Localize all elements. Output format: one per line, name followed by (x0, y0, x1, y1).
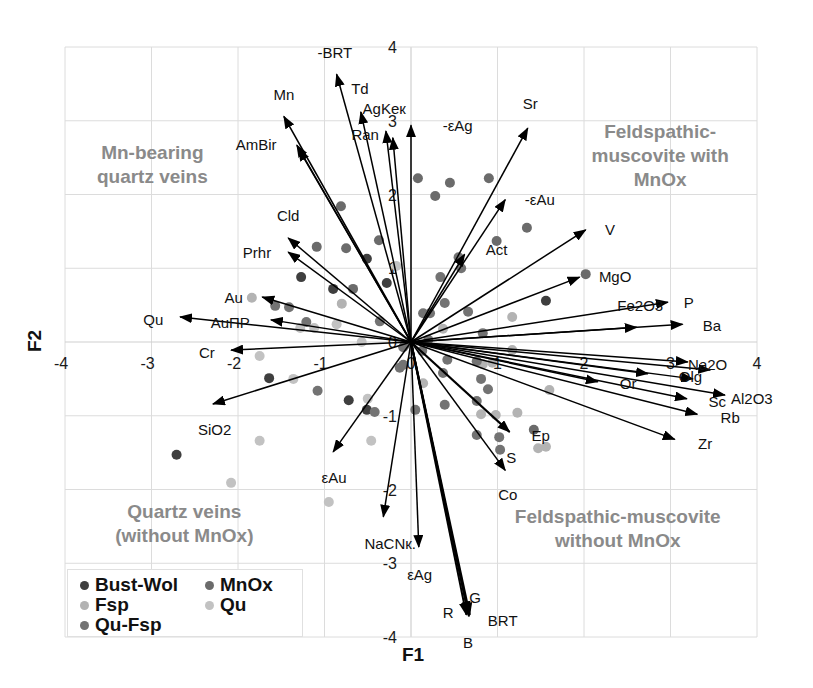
data-point (494, 432, 504, 442)
data-point (312, 242, 322, 252)
x-tick-label: -3 (140, 355, 154, 372)
data-point (495, 445, 505, 455)
vector-label: εAg (407, 566, 432, 583)
legend-item-qu: Qu (205, 595, 302, 615)
region-feldspathic-muscovite-without-mnox: Feldspathic-muscovitewithout MnOx (515, 506, 721, 551)
data-point (410, 405, 420, 415)
vector-label: -BRT (318, 44, 353, 61)
vector-label: εAu (321, 469, 346, 486)
vector-label: AgKeк (363, 100, 407, 117)
data-point (336, 201, 346, 211)
vector-label: Fe2O3 (617, 297, 663, 314)
data-point (337, 299, 347, 309)
region-label-line: Mn-bearing (101, 141, 203, 162)
vector-label: Rb (721, 409, 740, 426)
data-point (324, 497, 334, 507)
data-point (172, 450, 182, 460)
region-label-line: Feldspathic- (604, 121, 716, 142)
legend-label: Qu (220, 595, 246, 615)
data-point (296, 272, 306, 282)
data-point (440, 298, 450, 308)
vector-label: BRT (488, 612, 518, 629)
legend-dot-icon (205, 601, 214, 610)
legend-item-fsp: Fsp (80, 595, 205, 615)
y-axis-title: F2 (24, 326, 46, 356)
vector-label: Qu (143, 311, 163, 328)
x-axis-title: F1 (398, 644, 428, 666)
region-label-line: Quartz veins (127, 500, 241, 521)
legend-dot-icon (205, 581, 214, 590)
vector-label: MgO (599, 268, 632, 285)
data-point (445, 178, 455, 188)
vector-label: Sr (523, 95, 538, 112)
data-point (341, 243, 351, 253)
legend-item-mnox: MnOx (205, 575, 302, 595)
data-point (344, 395, 354, 405)
region-label-line: Feldspathic-muscovite (515, 506, 721, 527)
vector-label: P (684, 294, 694, 311)
vector-arrow-cr (231, 342, 411, 350)
vector-label: R (443, 604, 454, 621)
data-point (476, 374, 486, 384)
x-tick-label: 3 (666, 355, 675, 372)
data-point (391, 261, 401, 271)
region-quartz-veins-without-mnox: Quartz veins(without MnOx) (115, 500, 253, 545)
vector-label: B (463, 634, 473, 651)
data-point (507, 312, 517, 322)
legend-dot-icon (80, 581, 89, 590)
legend: Bust-Wol MnOx Fsp Qu Qu-Fsp (67, 569, 303, 637)
vector-label: Td (351, 80, 369, 97)
vector-label: Zr (698, 435, 712, 452)
legend-label: MnOx (220, 575, 273, 595)
vector-label: Na2O (688, 356, 727, 373)
data-point (226, 478, 236, 488)
vector-label: Mn (273, 86, 294, 103)
y-tick-label: -4 (383, 629, 397, 646)
region-label-line: quartz veins (97, 165, 208, 186)
vector-label: Ba (703, 317, 722, 334)
vector-label: AmBir (236, 136, 277, 153)
vector-arrow-td (361, 112, 411, 342)
series-fsp (247, 293, 555, 453)
vector-arrow-mn (284, 116, 411, 342)
y-tick-label: -3 (383, 555, 397, 572)
legend-label: Bust-Wol (95, 575, 178, 595)
data-point (483, 384, 493, 394)
legend-label: Qu-Fsp (95, 615, 162, 635)
vector-label: Or (620, 375, 637, 392)
legend-dot-icon (80, 621, 89, 630)
x-tick-label: -2 (227, 355, 241, 372)
vector-arrow-εau (333, 342, 411, 452)
vector-label: Ran (351, 126, 379, 143)
x-tick-label: -4 (54, 355, 68, 372)
data-point (522, 223, 532, 233)
region-label-line: muscovite with (591, 145, 728, 166)
vector-label: -εAg (443, 117, 473, 134)
y-tick-label: -2 (383, 482, 397, 499)
legend-item-qu-fsp: Qu-Fsp (80, 615, 205, 635)
x-tick-label: 4 (753, 355, 762, 372)
legend-dot-icon (80, 601, 89, 610)
vector-label: SiO2 (198, 421, 231, 438)
data-point (512, 408, 522, 418)
data-point (541, 296, 551, 306)
data-point (357, 337, 367, 347)
vector-label: Act (486, 241, 509, 258)
data-point (382, 278, 392, 288)
vector-label: AuПР (211, 314, 250, 331)
vector-label: Co (498, 486, 517, 503)
region-annotations: Mn-bearingquartz veinsFeldspathic-muscov… (97, 121, 729, 551)
vector-label: -εAu (525, 191, 555, 208)
data-points (172, 173, 591, 507)
data-point (366, 436, 376, 446)
y-tick-label: 4 (388, 39, 397, 56)
vector-arrow-act (411, 254, 465, 342)
region-mn-bearing-quartz-veins: Mn-bearingquartz veins (97, 141, 208, 186)
data-point (313, 386, 323, 396)
data-point (476, 409, 486, 419)
vector-label: Cld (277, 207, 300, 224)
data-point (581, 269, 591, 279)
data-point (430, 191, 440, 201)
legend-item-bust-wol: Bust-Wol (80, 575, 205, 595)
biplot-figure: Mn-bearingquartz veinsFeldspathic-muscov… (0, 0, 813, 688)
